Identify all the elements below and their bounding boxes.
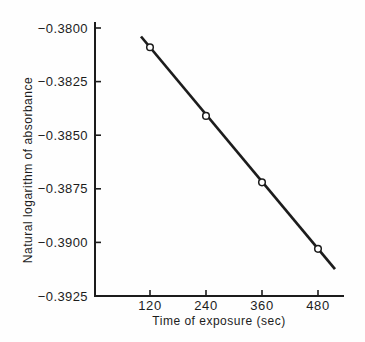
y-axis-title: Natural logarithm of absorbance [21, 77, 35, 263]
x-tick-label: 120 [138, 298, 162, 313]
y-tick-label: −0.3825 [38, 74, 88, 89]
x-tick-label: 240 [194, 298, 218, 313]
x-axis-title: Time of exposure (sec) [152, 314, 285, 328]
line-chart-figure: −0.3800−0.3825−0.3850−0.3875−0.3900−0.39… [0, 0, 365, 342]
y-tick-label: −0.3925 [38, 289, 88, 304]
data-point-marker [259, 179, 266, 186]
x-tick-label: 360 [250, 298, 274, 313]
axes-spines [95, 22, 344, 296]
x-tick-label: 480 [306, 298, 330, 313]
data-point-marker [315, 246, 322, 253]
data-line [141, 36, 335, 269]
y-tick-label: −0.3800 [38, 21, 88, 36]
y-tick-label: −0.3900 [38, 235, 88, 250]
plot-canvas: −0.3800−0.3825−0.3850−0.3875−0.3900−0.39… [0, 0, 365, 342]
data-point-marker [203, 113, 210, 120]
data-point-marker [147, 44, 154, 51]
y-tick-label: −0.3875 [38, 181, 88, 196]
y-tick-label: −0.3850 [38, 128, 88, 143]
